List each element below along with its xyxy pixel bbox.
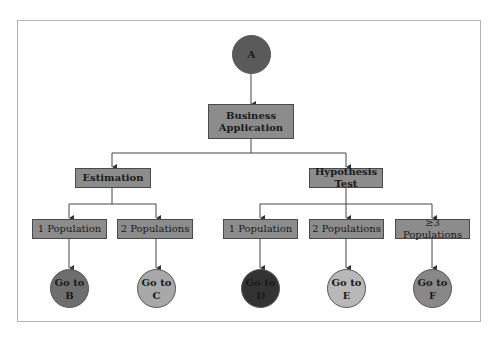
node-goto-d: Go to D	[241, 269, 280, 308]
node-hyp-2-populations: 2 Populations	[309, 219, 384, 239]
est-2-populations-label: 2 Populations	[121, 223, 190, 235]
node-est-1-population: 1 Population	[32, 219, 107, 239]
goto-f-line1: Go to	[418, 276, 448, 289]
node-hyp-1-population: 1 Population	[223, 219, 298, 239]
application-label: Application	[219, 122, 283, 134]
node-a: A	[232, 35, 271, 74]
goto-d-line2: D	[256, 289, 265, 302]
goto-b-line2: B	[65, 289, 73, 302]
est-1-population-label: 1 Population	[38, 223, 102, 235]
goto-c-line2: C	[153, 289, 161, 302]
goto-c-line1: Go to	[142, 276, 172, 289]
node-estimation: Estimation	[75, 168, 151, 188]
node-hyp-3plus-populations: ≥3 Populations	[395, 219, 470, 239]
goto-b-line1: Go to	[55, 276, 85, 289]
goto-e-line1: Go to	[332, 276, 362, 289]
hypothesis-test-label: Hypothesis Test	[310, 166, 382, 190]
node-goto-b: Go to B	[50, 269, 89, 308]
node-est-2-populations: 2 Populations	[117, 219, 193, 239]
node-hypothesis-test: Hypothesis Test	[309, 168, 383, 188]
hyp-3plus-populations-label: ≥3 Populations	[396, 217, 469, 241]
goto-f-line2: F	[429, 289, 436, 302]
business-label: Business	[226, 110, 276, 122]
estimation-label: Estimation	[82, 172, 143, 184]
goto-d-line1: Go to	[246, 276, 276, 289]
node-business-application: Business Application	[208, 104, 294, 139]
node-a-label: A	[248, 48, 256, 61]
hyp-2-populations-label: 2 Populations	[312, 223, 381, 235]
node-goto-e: Go to E	[327, 269, 366, 308]
node-goto-c: Go to C	[137, 269, 176, 308]
hyp-1-population-label: 1 Population	[229, 223, 293, 235]
node-goto-f: Go to F	[413, 269, 452, 308]
goto-e-line2: E	[343, 289, 351, 302]
